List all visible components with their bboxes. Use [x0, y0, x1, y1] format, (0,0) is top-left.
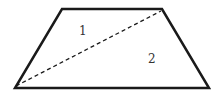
region-label-1: 1	[79, 24, 87, 38]
trapezoid-diagram: 1 2	[0, 0, 218, 95]
trapezoid-outline	[15, 9, 209, 88]
region-label-2: 2	[148, 52, 156, 66]
